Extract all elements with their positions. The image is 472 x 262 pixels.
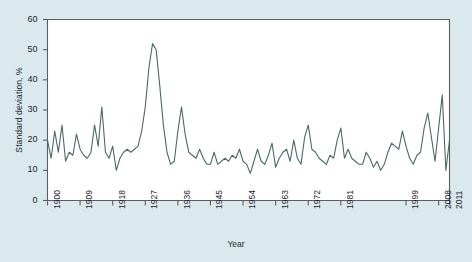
line-chart-plot: [0, 0, 472, 262]
y-tick-label: 60: [16, 14, 38, 24]
x-tick-label: 2011: [454, 190, 464, 208]
x-tick-label: 1945: [214, 190, 224, 209]
y-tick-label: 20: [16, 134, 38, 144]
y-tick-label: 30: [16, 104, 38, 114]
chart-figure: Standard deviation, % Year 0102030405060…: [0, 0, 472, 262]
x-tick-label: 1972: [312, 190, 322, 209]
x-tick-label: 1918: [117, 190, 127, 209]
y-axis-title: Standard deviation, %: [2, 0, 12, 50]
x-axis-title: Year: [0, 239, 472, 249]
y-tick-label: 40: [16, 74, 38, 84]
x-tick-label: 1909: [84, 190, 94, 209]
y-tick-label: 50: [16, 44, 38, 54]
x-tick-label: 1963: [280, 190, 290, 209]
x-tick-label: 1954: [247, 190, 257, 209]
x-tick-label: 1900: [52, 190, 62, 209]
y-tick-label: 0: [16, 195, 38, 205]
x-tick-label: 1927: [149, 190, 159, 209]
plot-background: [48, 20, 450, 201]
x-tick-label: 2008: [443, 190, 453, 209]
y-tick-label: 10: [16, 164, 38, 174]
x-tick-label: 1981: [345, 190, 355, 209]
x-tick-label: 1999: [410, 190, 420, 209]
x-tick-label: 1936: [182, 190, 192, 209]
